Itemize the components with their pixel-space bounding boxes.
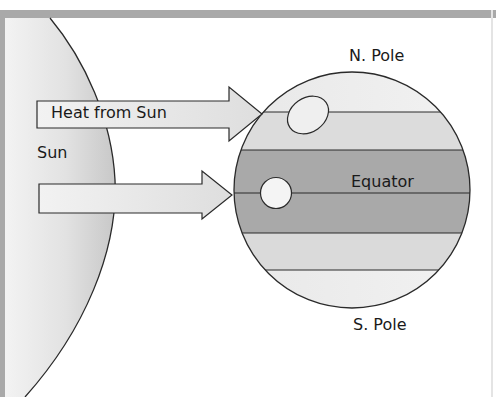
south-pole-label: S. Pole (353, 315, 406, 334)
equator-label: Equator (351, 172, 414, 191)
heat-from-sun-label: Heat from Sun (51, 103, 167, 122)
diagram-canvas: Heat from Sun Sun N. Pole Equator S. Pol… (0, 0, 496, 397)
diagram-graphics (0, 0, 496, 397)
sun-label: Sun (37, 143, 67, 162)
north-pole-label: N. Pole (349, 46, 404, 65)
north-temperate-band (230, 112, 475, 150)
equatorial-heat-spot (261, 178, 292, 209)
south-temperate-band (230, 233, 475, 270)
